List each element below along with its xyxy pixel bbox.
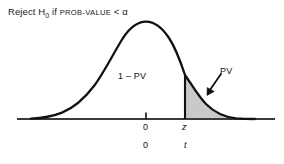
unshaded-region-label: 1 – PV <box>118 71 146 81</box>
shaded-region-label: PV <box>220 66 232 76</box>
pv-annotation-arrow <box>207 74 221 96</box>
axis-tick-label-z: z <box>182 122 187 132</box>
statistics-figure: Reject H0 if PROB-VALUE < α 1 – PV PV 0 … <box>0 0 284 164</box>
axis-tick-label-zero-t: 0 <box>143 140 148 150</box>
distribution-plot <box>0 0 284 164</box>
axis-tick-label-zero-z: 0 <box>143 122 148 132</box>
shaded-tail-region <box>185 75 255 119</box>
axis-tick-label-t: t <box>184 140 187 150</box>
